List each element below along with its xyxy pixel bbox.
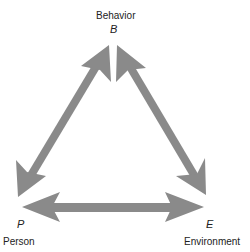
arrows — [0, 0, 250, 252]
arrow-person-environment — [22, 192, 204, 222]
arrow-person-behavior — [16, 45, 111, 197]
arrow-behavior-environment — [116, 45, 206, 195]
